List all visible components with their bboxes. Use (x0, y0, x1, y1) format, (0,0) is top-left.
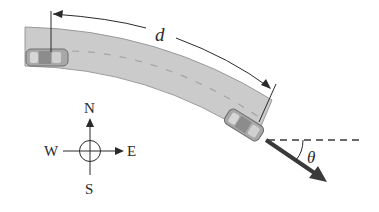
road-diagram: d θ N S W E (0, 0, 379, 212)
compass-east: E (127, 143, 136, 159)
direction-arrow-icon (266, 140, 327, 182)
compass-north: N (84, 100, 95, 116)
car-start-icon (26, 49, 68, 66)
compass-rose-icon (63, 118, 124, 175)
angle-arc (296, 140, 303, 160)
distance-label: d (155, 24, 165, 45)
angle-label: θ (307, 148, 315, 167)
compass-south: S (85, 181, 93, 197)
compass-west: W (44, 143, 59, 159)
